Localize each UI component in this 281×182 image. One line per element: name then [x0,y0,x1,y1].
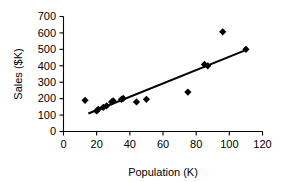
data-point-marker [133,98,140,105]
x-tick-label: 20 [91,138,103,150]
data-point-marker [81,97,88,104]
y-tick-label: 0 [50,125,56,137]
y-tick-label: 700 [38,10,56,22]
y-axis-tick-labels: 0100200300400500600700 [38,10,56,137]
chart-canvas: 0100200300400500600700 020406080100120 P… [0,0,281,182]
data-point-marker [219,28,226,35]
x-tick-label: 100 [220,138,238,150]
x-tick-label: 40 [124,138,136,150]
x-tick-label: 120 [253,138,271,150]
data-point-markers [81,28,249,114]
y-tick-label: 600 [38,27,56,39]
x-tick-label: 80 [190,138,202,150]
x-tick-label: 60 [157,138,169,150]
y-tick-label: 100 [38,109,56,121]
y-tick-label: 400 [38,60,56,72]
y-tick-label: 200 [38,92,56,104]
data-point-marker [143,96,150,103]
scatter-chart: 0100200300400500600700 020406080100120 P… [0,0,281,182]
x-tick-label: 0 [60,138,66,150]
x-axis-title: Population (K) [128,166,198,178]
y-axis-title: Sales ($K) [12,48,24,99]
axis-tick-marks [60,17,263,136]
data-point-marker [184,88,191,95]
y-tick-label: 500 [38,43,56,55]
x-axis-tick-labels: 020406080100120 [60,138,271,150]
y-tick-label: 300 [38,76,56,88]
